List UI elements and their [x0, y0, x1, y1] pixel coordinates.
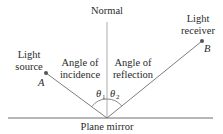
receiver-label-line2: receiver — [181, 25, 215, 36]
svg-text:2: 2 — [116, 93, 120, 101]
point-a-dot — [44, 71, 48, 75]
point-a-label: A — [37, 77, 45, 88]
svg-text:θ: θ — [110, 88, 115, 99]
point-b-label: B — [204, 43, 211, 54]
source-label-line1: Light — [18, 49, 41, 60]
reflection-label-line2: reflection — [113, 69, 154, 80]
source-label-line2: source — [15, 61, 43, 72]
incidence-label-line2: incidence — [60, 69, 101, 80]
svg-text:1: 1 — [102, 93, 106, 101]
reflection-label-line1: Angle of — [114, 57, 152, 68]
incidence-label-line1: Angle of — [61, 57, 99, 68]
reflection-diagram: Normal Plane mirror Light source Light r… — [0, 0, 223, 134]
angle-arc-reflection — [107, 99, 122, 106]
theta2-symbol: θ 2 — [110, 88, 120, 101]
theta1-symbol: θ 1 — [96, 88, 106, 101]
receiver-label-line1: Light — [187, 13, 210, 24]
mirror-label: Plane mirror — [81, 121, 134, 132]
svg-text:θ: θ — [96, 88, 101, 99]
diagram-svg: Normal Plane mirror Light source Light r… — [0, 0, 223, 134]
normal-label: Normal — [91, 5, 123, 16]
